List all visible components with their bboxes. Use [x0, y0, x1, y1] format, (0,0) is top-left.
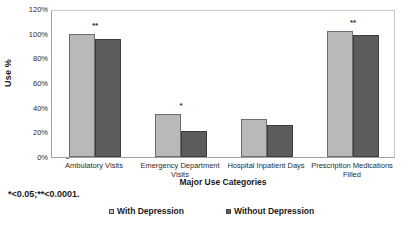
legend-label: With Depression: [117, 206, 184, 216]
y-tick-label: 0%: [18, 154, 48, 162]
y-tick-label: 40%: [18, 105, 48, 113]
y-tick-label: 60%: [18, 80, 48, 88]
y-axis-title: Use %: [3, 43, 13, 103]
chart-legend: With DepressionWithout Depression: [51, 206, 395, 220]
bar-group: **: [327, 11, 379, 157]
bar-with-depression: [241, 119, 267, 157]
bar-without-depression: [353, 35, 379, 157]
x-category-label: Hospital Inpatient Days: [219, 161, 313, 170]
significance-footnote: *<0.05;**<0.0001.: [8, 189, 80, 199]
legend-swatch-icon: [226, 209, 231, 214]
legend-item[interactable]: With Depression: [109, 206, 184, 216]
x-category-label-line: Ambulatory Visits: [47, 161, 141, 170]
plot-area: *****: [51, 10, 395, 158]
y-tick-label: 20%: [18, 129, 48, 137]
legend-item[interactable]: Without Depression: [226, 206, 314, 216]
bar-group: [241, 11, 293, 157]
x-axis-title: Major Use Categories: [51, 177, 395, 187]
x-category-label: Ambulatory Visits: [47, 161, 141, 170]
significance-marker: **: [327, 19, 379, 27]
significance-marker: *: [155, 102, 207, 110]
chart-figure: Use % 120%100%80%60%40%20%0% ***** Ambul…: [0, 0, 401, 227]
y-tick-label: 80%: [18, 55, 48, 63]
bar-group: *: [155, 11, 207, 157]
legend-label: Without Depression: [234, 206, 314, 216]
bar-without-depression: [181, 131, 207, 157]
bar-with-depression: [327, 31, 353, 157]
y-axis-tick-labels: 120%100%80%60%40%20%0%: [18, 10, 48, 158]
bar-with-depression: [69, 34, 95, 157]
legend-swatch-icon: [109, 209, 114, 214]
x-category-label-line: Hospital Inpatient Days: [219, 161, 313, 170]
significance-marker: **: [69, 22, 121, 30]
bar-with-depression: [155, 114, 181, 157]
bar-without-depression: [267, 125, 293, 157]
bar-without-depression: [95, 39, 121, 157]
bars-layer: *****: [52, 11, 394, 157]
y-tick-label: 120%: [18, 6, 48, 14]
y-tick-mark: [66, 158, 69, 159]
x-category-label-line: Prescription Medications: [305, 161, 399, 170]
x-category-label-line: Emergency Department: [133, 161, 227, 170]
bar-group: **: [69, 11, 121, 157]
y-tick-label: 100%: [18, 31, 48, 39]
